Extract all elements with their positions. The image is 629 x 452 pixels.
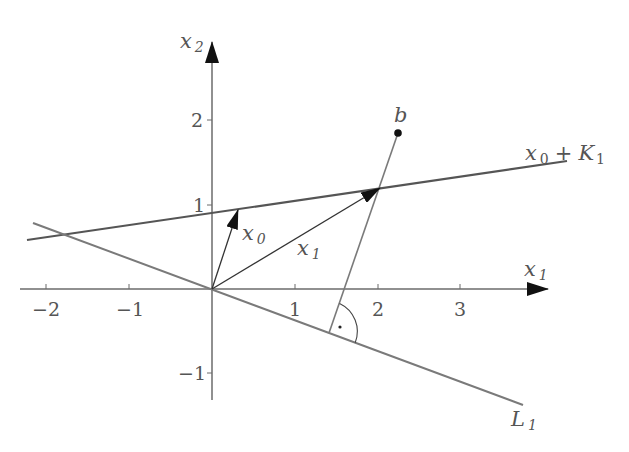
perpendicular-line-through-b [329,133,398,333]
point-b [394,129,402,137]
y-axis-label: x2 [180,29,204,55]
affine-line-x0-plus-K1 [27,161,567,240]
x-tick-label-3: 3 [454,298,466,320]
label-b: b [394,103,407,127]
x-tick-label-neg1: −1 [116,298,144,320]
projection-diagram: −2 −1 1 2 3 2 1 −1 x1 x2 b x0 x1 x0+K1 [0,0,629,452]
y-tick-label-1: 1 [193,194,205,216]
vector-x1 [212,188,380,289]
y-tick-label-neg1: −1 [178,362,206,384]
axes: −2 −1 1 2 3 2 1 −1 x1 x2 [20,29,548,400]
vector-x0 [212,210,238,289]
label-affine-x0-plus-K1: x0+K1 [525,141,605,167]
right-angle-dot [338,325,341,328]
label-L1: L1 [510,407,537,433]
subspace-line-L1 [33,223,523,405]
label-x1: x1 [297,236,321,262]
x-tick-label-neg2: −2 [32,298,60,320]
x-axis-label: x1 [524,257,548,283]
y-tick-label-2: 2 [191,109,203,131]
x-tick-label-1: 1 [289,298,301,320]
label-x0: x0 [242,221,266,247]
x-tick-label-2: 2 [372,298,384,320]
